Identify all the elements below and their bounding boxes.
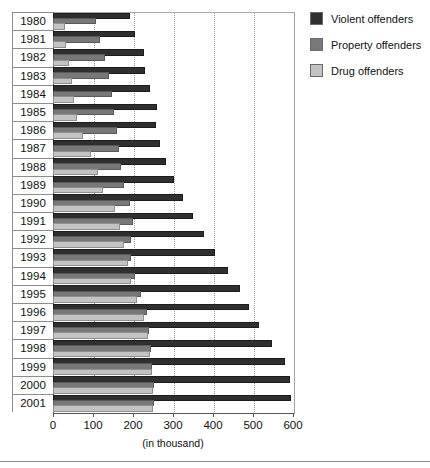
chart-row: 1994 bbox=[0, 267, 430, 285]
year-label: 1993 bbox=[11, 248, 55, 266]
chart-row: 1993 bbox=[0, 248, 430, 266]
year-label: 2000 bbox=[11, 376, 55, 394]
bar-group bbox=[53, 340, 413, 357]
bar-group bbox=[53, 213, 413, 230]
year-label: 1986 bbox=[11, 121, 55, 139]
bar-drug bbox=[53, 60, 69, 67]
year-label: 1989 bbox=[11, 176, 55, 194]
bar-drug bbox=[53, 278, 131, 285]
x-tick bbox=[53, 413, 54, 417]
chart-row: 2001 bbox=[0, 394, 430, 412]
year-label: 1997 bbox=[11, 321, 55, 339]
year-label: 1992 bbox=[11, 230, 55, 248]
bar-group bbox=[53, 194, 413, 211]
bar-drug bbox=[53, 151, 91, 158]
x-tick-label: 100 bbox=[73, 419, 113, 431]
bar-drug bbox=[53, 332, 148, 339]
bar-group bbox=[53, 49, 413, 66]
bar-group bbox=[53, 67, 413, 84]
bar-drug bbox=[53, 260, 128, 267]
bar-drug bbox=[53, 405, 153, 412]
x-tick-label: 600 bbox=[273, 419, 313, 431]
bar-group bbox=[53, 267, 413, 284]
chart-row: 1985 bbox=[0, 103, 430, 121]
chart-row: 1998 bbox=[0, 339, 430, 357]
chart-row: 1980 bbox=[0, 12, 430, 30]
chart-row: 1999 bbox=[0, 358, 430, 376]
year-label: 1985 bbox=[11, 103, 55, 121]
x-tick-label: 200 bbox=[113, 419, 153, 431]
bar-drug bbox=[53, 187, 103, 194]
bar-group bbox=[53, 104, 413, 121]
year-label: 2001 bbox=[11, 394, 55, 412]
chart-row: 1995 bbox=[0, 285, 430, 303]
bar-drug bbox=[53, 223, 120, 230]
bar-group bbox=[53, 322, 413, 339]
x-tick bbox=[173, 413, 174, 417]
year-rows: 1980198119821983198419851986198719881989… bbox=[0, 12, 430, 412]
chart-row: 1997 bbox=[0, 321, 430, 339]
year-label: 1981 bbox=[11, 30, 55, 48]
bar-drug bbox=[53, 78, 72, 85]
bar-group bbox=[53, 13, 413, 30]
bar-group bbox=[53, 376, 413, 393]
chart-row: 1986 bbox=[0, 121, 430, 139]
x-tick-label: 300 bbox=[153, 419, 193, 431]
bar-group bbox=[53, 85, 413, 102]
bar-group bbox=[53, 231, 413, 248]
bar-drug bbox=[53, 296, 137, 303]
chart-row: 1988 bbox=[0, 158, 430, 176]
chart-row: 1984 bbox=[0, 85, 430, 103]
bar-drug bbox=[53, 351, 150, 358]
x-tick bbox=[93, 413, 94, 417]
year-label: 1995 bbox=[11, 285, 55, 303]
x-tick bbox=[133, 413, 134, 417]
x-tick-label: 0 bbox=[33, 419, 73, 431]
year-label: 1996 bbox=[11, 303, 55, 321]
year-label: 1982 bbox=[11, 48, 55, 66]
bar-drug bbox=[53, 205, 115, 212]
footer-divider bbox=[0, 461, 430, 462]
bar-drug bbox=[53, 314, 144, 321]
year-label: 1990 bbox=[11, 194, 55, 212]
bar-group bbox=[53, 358, 413, 375]
chart-row: 1990 bbox=[0, 194, 430, 212]
bar-drug bbox=[53, 96, 74, 103]
year-label: 1991 bbox=[11, 212, 55, 230]
x-tick bbox=[293, 413, 294, 417]
year-label: 1984 bbox=[11, 85, 55, 103]
bar-group bbox=[53, 31, 413, 48]
x-tick-label: 500 bbox=[233, 419, 273, 431]
chart-row: 1991 bbox=[0, 212, 430, 230]
bar-group bbox=[53, 249, 413, 266]
x-axis-title: (in thousand) bbox=[53, 437, 293, 449]
year-label: 1983 bbox=[11, 67, 55, 85]
chart-row: 1992 bbox=[0, 230, 430, 248]
year-label: 1980 bbox=[11, 12, 55, 30]
bar-group bbox=[53, 122, 413, 139]
bar-drug bbox=[53, 387, 153, 394]
year-label: 1999 bbox=[11, 358, 55, 376]
bar-group bbox=[53, 140, 413, 157]
x-tick bbox=[213, 413, 214, 417]
bar-drug bbox=[53, 369, 152, 376]
chart-row: 1981 bbox=[0, 30, 430, 48]
x-tick-label: 400 bbox=[193, 419, 233, 431]
bar-drug bbox=[53, 169, 98, 176]
bar-group bbox=[53, 304, 413, 321]
x-tick bbox=[253, 413, 254, 417]
chart-row: 1982 bbox=[0, 48, 430, 66]
chart-row: 1989 bbox=[0, 176, 430, 194]
year-label: 1994 bbox=[11, 267, 55, 285]
x-axis: 0100200300400500600 bbox=[53, 413, 293, 414]
bar-group bbox=[53, 285, 413, 302]
bar-group bbox=[53, 395, 413, 412]
bar-group bbox=[53, 176, 413, 193]
chart-row: 1987 bbox=[0, 139, 430, 157]
year-label: 1998 bbox=[11, 339, 55, 357]
year-label: 1987 bbox=[11, 139, 55, 157]
chart-row: 1996 bbox=[0, 303, 430, 321]
year-label: 1988 bbox=[11, 158, 55, 176]
bar-drug bbox=[53, 241, 124, 248]
bar-group bbox=[53, 158, 413, 175]
